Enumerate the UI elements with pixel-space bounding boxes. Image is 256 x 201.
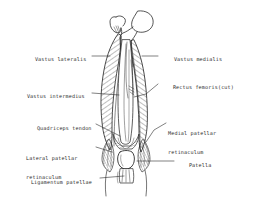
- label-ligamentum-patellae-line1: Ligamentum patellae: [31, 179, 92, 185]
- label-medial-patellar-retinaculum-line1: Medial patellar: [168, 130, 216, 136]
- label-vastus-lateralis-line1: Vastus lateralis: [35, 56, 86, 62]
- label-vastus-lateralis: Vastus lateralis: [22, 50, 86, 69]
- label-rectus-femoris-cut-line1: Rectus femoris(cut): [173, 84, 234, 90]
- figure-canvas: Vastus lateralis Vastus medialis Vastus …: [0, 0, 256, 201]
- leader-medial-patellar-retinaculum: [146, 123, 166, 142]
- label-vastus-medialis: Vastus medialis: [161, 50, 222, 69]
- label-vastus-intermedius-line1: Vastus intermedius: [27, 93, 85, 99]
- label-medial-patellar-retinaculum-line2: retinaculum: [168, 149, 216, 155]
- label-rectus-femoris-cut: Rectus femoris(cut): [160, 78, 234, 97]
- label-patella: Patella: [176, 156, 211, 175]
- label-vastus-intermedius: Vastus intermedius: [14, 87, 85, 106]
- femur-head-icon: [120, 11, 153, 41]
- lateral-patellar-retinaculum-icon: [102, 140, 114, 172]
- label-patella-line1: Patella: [189, 162, 212, 168]
- patella-icon: [118, 151, 135, 170]
- ligamentum-patellae-icon: [117, 169, 134, 183]
- label-vastus-medialis-line1: Vastus medialis: [174, 56, 222, 62]
- label-quadriceps-tendon-line1: Quadriceps tendon: [37, 125, 92, 131]
- label-ligamentum-patellae: Ligamentum patellae: [18, 173, 92, 192]
- greater-trochanter-icon: [110, 16, 125, 35]
- label-quadriceps-tendon: Quadriceps tendon: [24, 119, 92, 138]
- vastus-intermedius-belly-icon: [118, 40, 133, 144]
- label-lateral-patellar-retinaculum-line1: Lateral patellar: [26, 155, 77, 161]
- medial-patellar-retinaculum-icon: [138, 140, 150, 172]
